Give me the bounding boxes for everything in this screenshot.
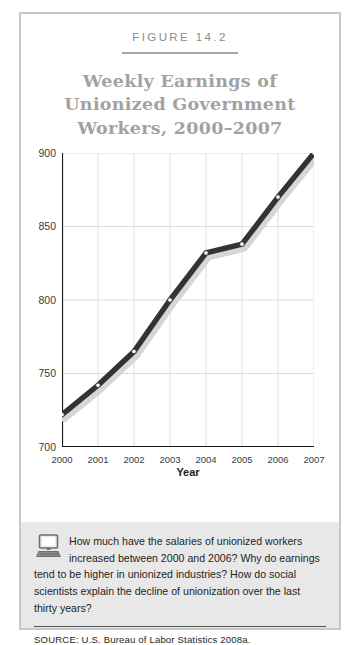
- y-axis-tick-label: 850: [38, 220, 56, 232]
- figure-divider: [122, 52, 238, 54]
- figure-box: FIGURE 14.2 Weekly Earnings of Unionized…: [19, 12, 341, 630]
- y-axis-tick-label: 700: [38, 441, 56, 453]
- x-axis-tick-label: 2000: [51, 454, 72, 465]
- chart-area: 7007508008509002000200120022003200420052…: [21, 153, 339, 483]
- figure-number: FIGURE 14.2: [21, 31, 339, 43]
- x-axis-tick-label: 2006: [267, 454, 288, 465]
- x-axis-tick-label: 2002: [123, 454, 144, 465]
- y-axis-tick-label: 800: [38, 294, 56, 306]
- computer-icon: [36, 534, 62, 558]
- source-text: SOURCE: U.S. Bureau of Labor Statistics …: [34, 634, 326, 645]
- x-axis-tick-label: 2004: [195, 454, 216, 465]
- data-point-marker: [62, 412, 64, 417]
- question-block: How much have the salaries of unionized …: [21, 522, 339, 628]
- data-point-marker: [276, 195, 281, 200]
- data-point-marker: [132, 349, 137, 354]
- data-point-marker: [240, 242, 245, 247]
- x-axis-tick-label: 2003: [159, 454, 180, 465]
- data-point-marker: [168, 297, 173, 302]
- figure-title-line-2: Unionized Government: [39, 93, 321, 116]
- y-axis-tick-label: 750: [38, 367, 56, 379]
- x-axis-tick-label: 2005: [231, 454, 252, 465]
- y-axis-tick-label: 900: [38, 147, 56, 159]
- figure-title-line-3: Workers, 2000–2007: [39, 117, 321, 140]
- source-divider: [34, 626, 326, 627]
- data-point-marker: [96, 383, 101, 388]
- figure-title: Weekly Earnings of Unionized Government …: [39, 70, 321, 140]
- x-axis-tick-label: 2007: [303, 454, 324, 465]
- figure-title-line-1: Weekly Earnings of: [39, 70, 321, 93]
- plot-area: 7007508008509002000200120022003200420052…: [62, 153, 314, 447]
- x-axis-tick-label: 2001: [87, 454, 108, 465]
- line-chart-svg: [62, 153, 314, 447]
- data-point-marker: [204, 250, 209, 255]
- x-axis-title: Year: [62, 466, 314, 478]
- question-text: How much have the salaries of unionized …: [34, 533, 326, 617]
